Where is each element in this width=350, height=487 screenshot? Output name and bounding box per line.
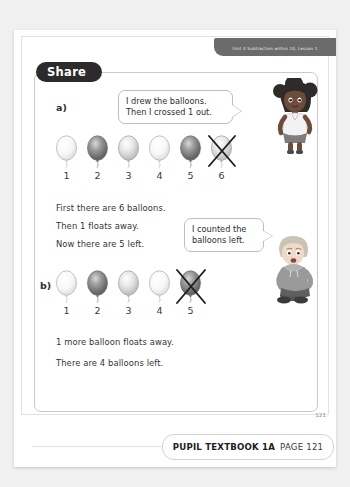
unit-banner-text: Unit 4 Subtraction within 10, Lesson 1 <box>233 46 318 51</box>
balloon-number: 1 <box>54 305 79 316</box>
balloon-icon-light <box>54 270 79 301</box>
balloon-cell-b-2: 2 <box>85 270 112 301</box>
bubble-a-tail <box>232 105 241 117</box>
speech-bubble-b: I counted the balloons left. <box>184 218 264 252</box>
speech-bubble-a: I drew the balloons. Then I crossed 1 ou… <box>118 90 233 124</box>
sentence-a-1: First there are 6 balloons. <box>56 203 166 213</box>
corner-page-number: 121 <box>315 412 326 418</box>
unit-banner: Unit 4 Subtraction within 10, Lesson 1 <box>214 38 336 56</box>
bubble-a-line-1: I drew the balloons. <box>126 96 225 107</box>
balloon-number: 6 <box>209 170 234 181</box>
balloon-cell-a-3: 3 <box>116 135 143 166</box>
bubble-a-line-2: Then I crossed 1 out. <box>126 107 225 118</box>
sentence-b-1: 1 more balloon floats away. <box>56 337 174 347</box>
balloon-number: 3 <box>116 305 141 316</box>
sentence-b-2: There are 4 balloons left. <box>56 358 163 368</box>
part-b-label: b) <box>40 280 51 291</box>
balloon-icon-dark <box>85 135 110 166</box>
balloon-icon-light <box>147 135 172 166</box>
balloon-cell-b-1: 1 <box>54 270 81 301</box>
balloon-number: 4 <box>147 305 172 316</box>
balloon-number: 3 <box>116 170 141 181</box>
balloon-number: 4 <box>147 170 172 181</box>
balloon-icon-dark <box>178 135 203 166</box>
balloon-cell-b-5: 5 <box>178 270 205 301</box>
page-sheet: Unit 4 Subtraction within 10, Lesson 1 S… <box>14 30 336 467</box>
balloon-cell-b-3: 3 <box>116 270 143 301</box>
balloon-icon-light <box>54 135 79 166</box>
share-pill-label: Share <box>47 65 86 79</box>
part-a-label: a) <box>56 102 67 113</box>
sentence-a-2: Then 1 floats away. <box>56 221 139 231</box>
balloon-cell-a-2: 2 <box>85 135 112 166</box>
balloon-cell-a-5: 5 <box>178 135 205 166</box>
footer-book-label: PUPIL TEXTBOOK 1A <box>173 442 275 452</box>
boy-character <box>267 232 325 308</box>
balloon-number: 2 <box>85 170 110 181</box>
balloon-number: 5 <box>178 170 203 181</box>
balloon-number: 2 <box>85 305 110 316</box>
balloon-icon-crossed <box>178 270 203 301</box>
balloon-icon-mid <box>116 135 141 166</box>
footer-pill: PUPIL TEXTBOOK 1A PAGE 121 <box>162 434 334 460</box>
footer-page-label: PAGE 121 <box>280 442 323 452</box>
bubble-b-line-2: balloons left. <box>192 235 256 246</box>
footer-rule <box>32 446 164 447</box>
sentence-a-3: Now there are 5 left. <box>56 239 144 249</box>
balloon-icon-mid <box>116 270 141 301</box>
balloon-icon-dark <box>85 270 110 301</box>
balloon-cell-a-6: 6 <box>209 135 236 166</box>
balloon-cell-a-1: 1 <box>54 135 81 166</box>
balloon-number: 1 <box>54 170 79 181</box>
balloon-cell-a-4: 4 <box>147 135 174 166</box>
girl-character <box>267 78 323 158</box>
balloon-number: 5 <box>178 305 203 316</box>
balloon-cell-b-4: 4 <box>147 270 174 301</box>
bubble-b-line-1: I counted the <box>192 224 256 235</box>
balloon-icon-light <box>147 270 172 301</box>
balloon-icon-crossed <box>209 135 234 166</box>
share-section-pill: Share <box>36 62 102 82</box>
